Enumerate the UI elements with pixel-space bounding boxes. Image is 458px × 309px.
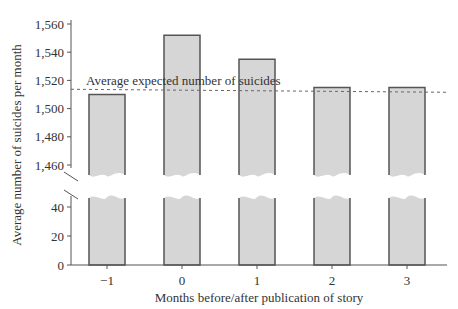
reference-line-label: Average expected number of suicides [86, 73, 281, 88]
y-tick-label: 20 [51, 229, 64, 244]
bar-upper-segment [314, 87, 350, 176]
y-tick-label: 1,540 [35, 45, 64, 60]
bar-lower-segment [314, 195, 350, 265]
x-tick-label: 0 [179, 273, 186, 288]
y-tick-label: 40 [51, 200, 64, 215]
x-tick-label: 1 [254, 273, 261, 288]
x-tick-label: 3 [404, 273, 411, 288]
y-tick-label: 1,500 [35, 101, 64, 116]
bar-lower-segment [239, 195, 275, 265]
y-tick-label: 1,480 [35, 129, 64, 144]
bar-lower-segment [389, 195, 425, 265]
x-tick-label: 2 [329, 273, 336, 288]
x-axis-title: Months before/after publication of story [155, 290, 364, 305]
x-tick-label: −1 [100, 273, 114, 288]
bar-chart: Average expected number of suicides1,460… [0, 0, 458, 309]
axis-break-mark [64, 172, 78, 181]
bar-lower-segment [164, 195, 200, 265]
y-tick-label: 1,460 [35, 158, 64, 173]
bar-upper-segment [389, 87, 425, 176]
y-axis-title: Average number of suicides per month [9, 44, 24, 246]
y-tick-label: 1,520 [35, 73, 64, 88]
bar-lower-segment [89, 195, 125, 265]
y-tick-label: 1,560 [35, 17, 64, 32]
bar-upper-segment [89, 95, 125, 177]
bar-upper-segment [164, 35, 200, 176]
bars-group [89, 35, 425, 265]
y-tick-label: 0 [58, 258, 65, 273]
